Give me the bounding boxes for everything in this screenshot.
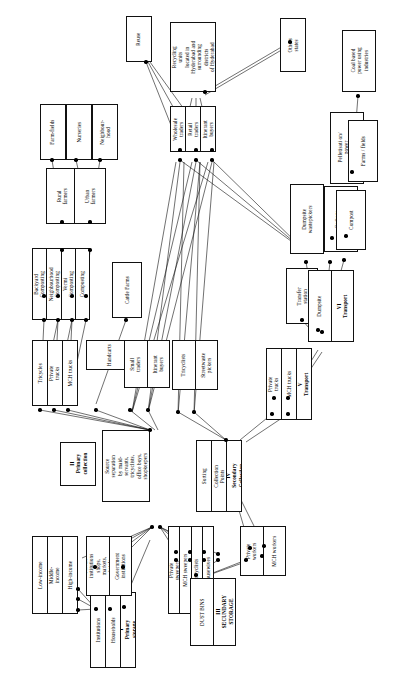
- group-composting[interactable]: CompostingVermiCompostingNeighbourhoodCo…: [32, 248, 90, 320]
- node-cell[interactable]: IVSecondaryCollection: [227, 441, 241, 511]
- node-cell[interactable]: Neighbour-hood: [93, 105, 117, 159]
- node-cell[interactable]: VermiComposting: [62, 249, 76, 319]
- node-cell[interactable]: Coal basedpower usingindustries: [343, 31, 375, 91]
- group-transport-six[interactable]: VITransportDumpsite: [308, 270, 354, 342]
- connector-node-dot: [128, 408, 131, 411]
- connector-node-dot: [260, 554, 263, 557]
- node-label: Compost: [348, 210, 354, 229]
- node-label: IIPrimarycollection: [68, 453, 87, 475]
- group-dumpsite-pickers[interactable]: Dumpsitewastepickers: [290, 184, 324, 254]
- node-cell[interactable]: Othersstates: [281, 19, 305, 71]
- connector-node-dot: [94, 607, 97, 610]
- node-label: Transferstation: [296, 287, 309, 305]
- group-income[interactable]: High-incomeMiddle-incomeLow-income: [32, 536, 78, 614]
- node-cell[interactable]: Itinerantbuyers: [148, 341, 170, 387]
- node-cell[interactable]: Privateworkers: [241, 527, 264, 575]
- group-mch-workers[interactable]: MCH workersPrivateworkers: [240, 526, 286, 576]
- node-cell[interactable]: Sourceseparationby maid-servants,tricycl…: [103, 431, 149, 501]
- group-itinerant-small-traders[interactable]: ItinerantbuyersSmalltraders: [124, 340, 170, 388]
- node-cell[interactable]: Privatesweepers: [169, 527, 180, 613]
- node-label: Wholesaletraders: [172, 118, 185, 141]
- node-cell[interactable]: Institutions: [91, 593, 106, 667]
- node-cell[interactable]: Nurseries: [67, 105, 91, 159]
- node-cell[interactable]: Dumpsitewastepickers: [291, 185, 323, 253]
- node-cell[interactable]: MCH workers: [264, 527, 286, 575]
- group-neighbourhood[interactable]: Neighbour-hood: [92, 104, 118, 160]
- node-cell[interactable]: Composting: [76, 249, 89, 319]
- group-primary-collection[interactable]: IIPrimarycollection: [60, 442, 96, 486]
- node-cell[interactable]: Ruralfarmers: [47, 169, 77, 223]
- node-cell[interactable]: Privateinstitutionsshops,markets,hotels: [87, 537, 110, 595]
- connector-node-dot: [216, 558, 219, 561]
- node-cell[interactable]: Wholesaletraders: [171, 107, 186, 151]
- connector-node-dot: [52, 408, 55, 411]
- node-cell[interactable]: NeighbourhoodComposting: [47, 249, 61, 319]
- node-cell[interactable]: Cattle Farms: [113, 263, 141, 317]
- connector-node-dot: [42, 318, 45, 321]
- node-cell[interactable]: Retailtraders: [186, 107, 201, 151]
- group-nurseries[interactable]: Nurseries: [66, 104, 92, 160]
- node-label: VITransport: [336, 294, 349, 317]
- group-secondary-storage[interactable]: IIISECUNDARYSTORAGEDUST BINS: [190, 578, 236, 646]
- node-label: IIISECUNDARYSTORAGE: [215, 595, 234, 628]
- connector-node-dot: [42, 294, 45, 297]
- node-cell[interactable]: Itinerantbuyers: [201, 107, 215, 151]
- node-cell[interactable]: High-income: [63, 537, 77, 613]
- connector-node-dot: [188, 558, 191, 561]
- node-cell[interactable]: CollectionPoints: [212, 441, 227, 511]
- node-cell[interactable]: Tricyclists: [173, 341, 196, 389]
- node-cell[interactable]: IIISECUNDARYSTORAGE: [214, 579, 236, 645]
- node-cell[interactable]: Streetwastepickers: [196, 341, 218, 389]
- connector-node-dot: [74, 158, 77, 161]
- node-cell[interactable]: Reuse: [127, 17, 151, 61]
- node-cell[interactable]: Sorting: [197, 441, 212, 511]
- group-vehicles[interactable]: MCH trucksPrivatetrucksTricycles: [32, 340, 78, 406]
- group-secondary-collection[interactable]: IVSecondaryCollectionCollectionPointsSor…: [196, 440, 242, 512]
- connector-node-dot: [320, 330, 323, 333]
- node-cell[interactable]: MCH trucks: [63, 341, 77, 405]
- group-source-separation[interactable]: Sourceseparationby maid-servants,tricycl…: [102, 430, 150, 502]
- node-cell[interactable]: Governmentinstitutions: [110, 537, 132, 595]
- node-cell[interactable]: Compost: [337, 191, 365, 249]
- node-cell[interactable]: Recyclingunitslocated inHyderabad andsur…: [171, 23, 215, 91]
- group-recycling-units[interactable]: Recyclingunitslocated inHyderabad andsur…: [170, 22, 216, 92]
- group-other-states[interactable]: Othersstates: [280, 18, 306, 72]
- node-label: High-income: [67, 561, 73, 589]
- node-cell[interactable]: IIPrimarycollection: [61, 443, 95, 485]
- node-cell[interactable]: BackyardComposting: [33, 249, 47, 319]
- connector-node-dot: [356, 94, 359, 97]
- connector-node-dot: [210, 158, 213, 161]
- node-label: BackyardComposting: [33, 271, 46, 297]
- connector-node-dot: [70, 318, 73, 321]
- node-label: Reuse: [136, 32, 142, 45]
- group-traders[interactable]: ItinerantbuyersRetailtradersWholesaletra…: [170, 106, 216, 152]
- node-cell[interactable]: Smalltraders: [125, 341, 148, 387]
- group-primary-storage[interactable]: IPrimarystorageHouseholdsInstitutions: [90, 592, 136, 668]
- node-label: Neighbour-hood: [99, 120, 112, 145]
- node-cell[interactable]: MCH trucks: [282, 349, 297, 419]
- node-cell[interactable]: Privatetrucks: [267, 349, 282, 419]
- group-urban-farmers[interactable]: Urbanfarmers: [74, 168, 106, 224]
- group-streetwaste-pickers[interactable]: StreetwastepickersTricyclists: [172, 340, 218, 390]
- connector-node-dot: [124, 318, 127, 321]
- node-cell[interactable]: Households: [106, 593, 121, 667]
- connector-node-dot: [94, 408, 97, 411]
- node-cell[interactable]: Low-income: [33, 537, 48, 613]
- node-cell[interactable]: VTransport: [297, 349, 311, 419]
- node-cell[interactable]: VITransport: [332, 271, 354, 341]
- group-transport-five[interactable]: VTransportMCH trucksPrivatetrucks: [266, 348, 312, 420]
- group-farm-fields[interactable]: Farm-fields: [40, 104, 66, 160]
- node-cell[interactable]: DUST BINS: [191, 579, 214, 645]
- node-cell[interactable]: Urbanfarmers: [75, 169, 105, 223]
- group-compost[interactable]: Compost: [336, 190, 366, 250]
- node-cell[interactable]: Privatetrucks: [48, 341, 63, 405]
- node-cell[interactable]: IPrimarystorage: [121, 593, 135, 667]
- connector-node-dot: [60, 248, 63, 251]
- group-reuse[interactable]: Reuse: [126, 16, 152, 62]
- node-cell[interactable]: Tricycles: [33, 341, 48, 405]
- node-label: Farm-fields: [50, 119, 56, 144]
- node-cell[interactable]: Middle-income: [48, 537, 63, 613]
- node-cell[interactable]: Farm-fields: [41, 105, 65, 159]
- group-cattle-farms[interactable]: Cattle Farms: [112, 262, 142, 318]
- group-coal-power[interactable]: Coal basedpower usingindustries: [342, 30, 376, 92]
